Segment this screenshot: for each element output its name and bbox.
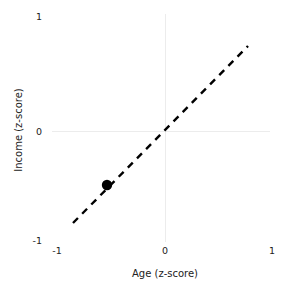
y-tick-label-neg1: -1 [33,235,42,246]
x-tick-label-0: 0 [162,245,168,256]
x-axis-label: Age (z-score) [132,268,198,279]
data-layer [0,0,291,296]
x-tick-label-1: 1 [269,245,275,256]
x-tick-label-neg1: -1 [52,245,61,256]
y-axis-label: Income (z-score) [13,88,24,172]
chart-figure: -1 0 1 1 0 -1 Age (z-score) Income (z-sc… [0,0,291,296]
y-tick-label-0: 0 [36,126,42,137]
plot-area [0,0,291,296]
y-tick-label-1: 1 [36,11,42,22]
data-point-marker[interactable] [102,180,112,190]
regression-line [73,46,248,223]
